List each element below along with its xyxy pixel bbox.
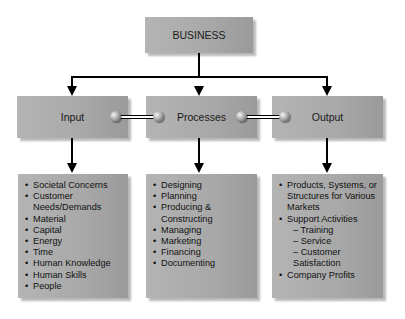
input-item: Societal Concerns: [25, 180, 122, 191]
arrow-down-icon: [67, 163, 77, 173]
link-processes-output: [242, 115, 284, 119]
processes-details-box: Designing Planning Producing & Construct…: [146, 174, 257, 298]
process-item: Planning: [153, 191, 251, 202]
input-stem-line: [71, 138, 73, 164]
output-item: Support Activities: [279, 214, 377, 225]
output-subitem: – Service: [279, 236, 377, 247]
connector-ball-icon: [236, 111, 247, 122]
arrow-down-icon: [322, 86, 332, 96]
branch-line: [71, 76, 327, 78]
input-item: Time: [25, 247, 122, 258]
output-details-box: Products, Systems, or Structures for Var…: [272, 174, 383, 298]
output-item: Company Profits: [279, 270, 377, 281]
branch-drop-output: [326, 76, 328, 86]
input-item: Energy: [25, 236, 122, 247]
process-item: Marketing: [153, 236, 251, 247]
input-item: Human Knowledge: [25, 258, 122, 269]
process-item: Designing: [153, 180, 251, 191]
arrow-down-icon: [194, 163, 204, 173]
connector-ball-icon: [110, 111, 121, 122]
business-box: BUSINESS: [145, 17, 253, 53]
process-item: Producing & Constructing: [153, 202, 251, 224]
output-subitem: – Customer Satisfaction: [279, 247, 377, 269]
process-item: Financing: [153, 247, 251, 258]
input-item: People: [25, 281, 122, 292]
input-item: Human Skills: [25, 270, 122, 281]
link-input-processes: [118, 115, 156, 119]
arrow-down-icon: [322, 163, 332, 173]
output-subitem: – Training: [279, 225, 377, 236]
branch-drop-input: [71, 76, 73, 86]
input-details-box: Societal Concerns Customer Needs/Demands…: [18, 174, 128, 298]
output-stem-line: [326, 138, 328, 164]
input-label: Input: [61, 111, 84, 123]
root-stem-line: [198, 53, 200, 77]
output-item: Products, Systems, or Structures for Var…: [279, 180, 377, 214]
input-item: Capital: [25, 225, 122, 236]
process-item: Managing: [153, 225, 251, 236]
input-item: Customer Needs/Demands: [25, 191, 122, 213]
input-item: Material: [25, 214, 122, 225]
arrow-down-icon: [67, 86, 77, 96]
connector-ball-icon: [279, 111, 290, 122]
arrow-down-icon: [194, 86, 204, 96]
processes-stem-line: [198, 138, 200, 164]
connector-ball-icon: [153, 111, 164, 122]
output-label: Output: [312, 111, 344, 123]
processes-label: Processes: [177, 111, 226, 123]
business-label: BUSINESS: [172, 29, 225, 41]
process-item: Documenting: [153, 258, 251, 269]
